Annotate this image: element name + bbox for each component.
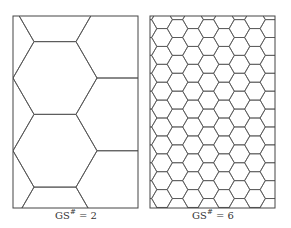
panel-frame bbox=[150, 16, 275, 208]
label-prefix: GS bbox=[192, 210, 207, 221]
label-prefix: GS bbox=[55, 210, 70, 221]
grain-size-label-6: GS# = 6 bbox=[192, 209, 234, 221]
hex-grid-panel-gs6 bbox=[121, 0, 291, 228]
label-superscript: # bbox=[207, 208, 213, 216]
hexagon-grid-fine bbox=[121, 0, 291, 228]
label-value: = 6 bbox=[213, 210, 234, 221]
grain-size-label-2: GS# = 2 bbox=[55, 209, 97, 221]
hexagon-cells bbox=[121, 0, 291, 228]
grain-size-diagram bbox=[0, 0, 291, 228]
label-superscript: # bbox=[70, 208, 76, 216]
label-value: = 2 bbox=[76, 210, 97, 221]
